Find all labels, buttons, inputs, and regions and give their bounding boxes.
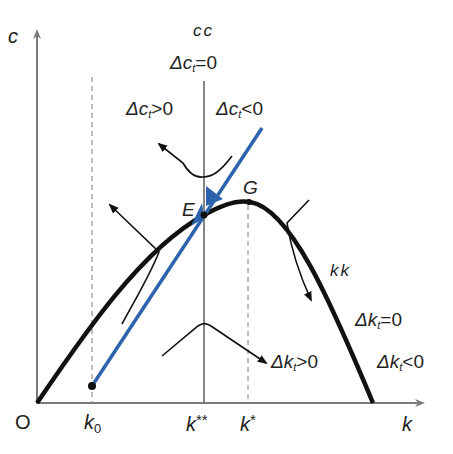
- kk-locus-condition: Δkt=0: [355, 310, 402, 331]
- kk-outside-symbol: Δk: [377, 351, 399, 372]
- origin-label: O: [15, 412, 31, 432]
- tick-k-double-star: k**: [186, 412, 208, 434]
- point-E: [201, 212, 208, 219]
- cc-left-symbol: Δc: [126, 98, 148, 119]
- cc-cond-rest: =0: [195, 52, 217, 73]
- kk-outside-region-label: Δkt<0: [377, 352, 424, 373]
- kk-locus-name: kk: [330, 262, 351, 279]
- direction-arrows: [110, 144, 311, 363]
- tick-k0: k0: [84, 412, 101, 435]
- initial-point-k0: [88, 382, 96, 390]
- kk-cond-rest: =0: [380, 309, 402, 330]
- point-G-label: G: [243, 178, 258, 197]
- cc-right-region-label: Δct<0: [216, 99, 263, 120]
- kk-cond-symbol: Δk: [355, 309, 377, 330]
- cc-left-rest: >0: [151, 98, 173, 119]
- cc-right-symbol: Δc: [216, 98, 238, 119]
- tick-k-double-star-sup: **: [196, 411, 208, 428]
- point-E-label: E: [182, 200, 195, 219]
- kk-below-region-label: Δkt>0: [271, 352, 318, 373]
- axes: [36, 34, 420, 404]
- kk-locus-curve: [37, 201, 373, 403]
- tick-k-star-symbol: k: [240, 413, 250, 435]
- cc-left-region-label: Δct>0: [126, 99, 173, 120]
- tick-k0-symbol: k: [84, 411, 94, 433]
- tick-k-star: k*: [240, 412, 256, 434]
- x-axis-label: k: [402, 414, 412, 434]
- kk-below-symbol: Δk: [271, 351, 293, 372]
- cc-locus-condition: Δct=0: [170, 53, 217, 74]
- y-axis-label: c: [8, 26, 18, 46]
- cc-right-rest: <0: [241, 98, 263, 119]
- tick-k-double-star-symbol: k: [186, 413, 196, 435]
- arrow-left-branch: [110, 205, 159, 324]
- arrow-lower-branch: [162, 324, 266, 363]
- tick-k-star-sup: *: [250, 411, 256, 428]
- kk-outside-rest: <0: [402, 351, 424, 372]
- cc-locus-name: cc: [193, 22, 214, 39]
- phase-diagram: [0, 0, 453, 454]
- kk-below-rest: >0: [296, 351, 318, 372]
- saddle-path: [88, 128, 262, 390]
- arrow-upper-left-branch: [159, 144, 232, 177]
- point-G: [246, 199, 252, 205]
- tick-k0-sub: 0: [94, 421, 101, 436]
- cc-cond-symbol: Δc: [170, 52, 192, 73]
